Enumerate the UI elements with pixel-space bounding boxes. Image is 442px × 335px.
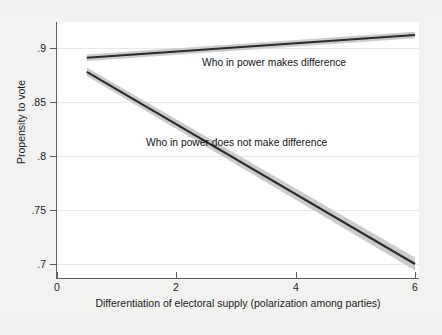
y-tick-0.7: [50, 264, 56, 265]
x-axis-title: Differentiation of electoral supply (pol…: [57, 297, 419, 309]
annotation-makes-difference: Who in power makes difference: [202, 57, 346, 68]
x-tick-6: [415, 272, 416, 278]
annotation-does-not-make-difference: Who in power does not make difference: [146, 137, 327, 148]
y-tick-0.85: [50, 102, 56, 103]
line-makes-difference: [87, 35, 415, 58]
y-tick-0.8: [50, 156, 56, 157]
plot-area: Who in power makes difference Who in pow…: [57, 22, 419, 278]
x-tick-0: [57, 272, 58, 278]
y-tick-0.75: [50, 210, 56, 211]
x-tick-2: [176, 272, 177, 278]
y-tick-0.9: [50, 48, 56, 49]
x-tick-label-2: 2: [164, 281, 188, 293]
x-tick-label-6: 6: [403, 281, 427, 293]
scan-band: [0, 0, 442, 14]
x-tick-4: [296, 272, 297, 278]
scan-band: [0, 318, 442, 335]
y-tick-label-0.7: .7: [18, 258, 46, 270]
line-does-not-make-difference: [87, 72, 415, 264]
x-tick-label-4: 4: [284, 281, 308, 293]
x-tick-label-0: 0: [45, 281, 69, 293]
chart-figure: Who in power makes difference Who in pow…: [0, 0, 442, 335]
y-axis-title: Propensity to vote: [15, 27, 27, 217]
y-axis-line: [56, 22, 57, 279]
x-axis-line: [56, 278, 419, 279]
